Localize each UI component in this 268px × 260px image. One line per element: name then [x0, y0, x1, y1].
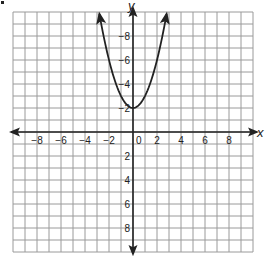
y-tick-label: −8	[119, 31, 131, 42]
y-tick-label: 2	[124, 151, 130, 162]
x-tick-label: 6	[202, 135, 208, 146]
x-tick-label: 2	[154, 135, 160, 146]
x-tick-label: 4	[178, 135, 184, 146]
coordinate-plane: −8−6−4−2024688642−2−4−6−8 x y	[0, 0, 268, 260]
x-tick-label: −6	[55, 135, 67, 146]
y-tick-label: −6	[119, 55, 131, 66]
x-tick-label: 8	[226, 135, 232, 146]
x-axis-label: x	[256, 125, 264, 140]
y-tick-label: 4	[124, 175, 130, 186]
x-tick-label: −4	[79, 135, 91, 146]
x-tick-label: 0	[136, 135, 142, 146]
y-tick-label: 8	[124, 223, 130, 234]
x-tick-label: −8	[31, 135, 43, 146]
y-axis-label: y	[127, 0, 136, 13]
y-tick-label: −2	[119, 103, 131, 114]
axes	[11, 8, 257, 254]
y-tick-label: 6	[124, 199, 130, 210]
x-tick-label: −2	[103, 135, 115, 146]
y-tick-label: −4	[119, 79, 131, 90]
